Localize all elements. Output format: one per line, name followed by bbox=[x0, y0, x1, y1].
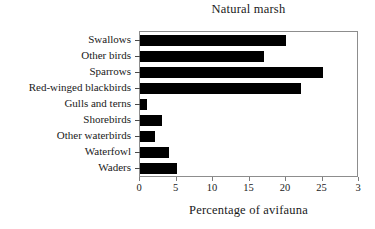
bars-group bbox=[140, 32, 357, 176]
x-axis-title: Percentage of avifauna bbox=[139, 203, 358, 218]
bar bbox=[140, 83, 301, 94]
bar bbox=[140, 147, 169, 158]
category-label: Shorebirds bbox=[0, 114, 135, 125]
bar-chart: Natural marsh SwallowsOther birdsSparrow… bbox=[0, 0, 375, 229]
category-label: Other birds bbox=[0, 50, 135, 61]
value-tick bbox=[176, 177, 177, 181]
category-label: Waterfowl bbox=[0, 146, 135, 157]
bar bbox=[140, 163, 177, 174]
bar bbox=[140, 51, 264, 62]
bar bbox=[140, 115, 162, 126]
value-tick bbox=[139, 177, 140, 181]
category-axis-labels: SwallowsOther birdsSparrowsRed-winged bl… bbox=[0, 31, 135, 177]
value-tick bbox=[285, 177, 286, 181]
value-tick bbox=[322, 177, 323, 181]
category-label: Sparrows bbox=[0, 66, 135, 77]
value-tick bbox=[358, 177, 359, 181]
value-tick-label: 20 bbox=[280, 182, 291, 194]
category-label: Red-winged blackbirds bbox=[0, 82, 135, 93]
value-tick-label: 25 bbox=[316, 182, 327, 194]
bar bbox=[140, 99, 147, 110]
value-tick bbox=[249, 177, 250, 181]
value-tick-label: 15 bbox=[243, 182, 254, 194]
value-tick bbox=[212, 177, 213, 181]
value-tick-label: 3 bbox=[355, 182, 360, 194]
category-label: Gulls and terns bbox=[0, 98, 135, 109]
chart-title: Natural marsh bbox=[139, 2, 358, 17]
value-tick-label: 10 bbox=[207, 182, 218, 194]
category-label: Swallows bbox=[0, 34, 135, 45]
bar bbox=[140, 131, 155, 142]
bar bbox=[140, 35, 286, 46]
category-label: Other waterbirds bbox=[0, 130, 135, 141]
value-tick-label: 5 bbox=[173, 182, 178, 194]
value-tick-label: 0 bbox=[136, 182, 141, 194]
category-label: Waders bbox=[0, 162, 135, 173]
bar bbox=[140, 67, 323, 78]
